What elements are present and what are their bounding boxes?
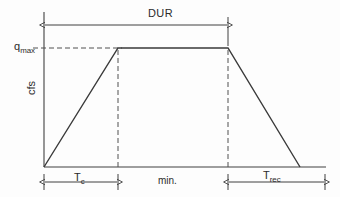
tc-label-subscript: c <box>81 177 85 186</box>
q-max-label: qmax <box>14 41 35 55</box>
dur-label: DUR <box>148 8 173 19</box>
y-axis-label: cfs <box>26 81 37 95</box>
q-max-label-subscript: max <box>20 46 35 55</box>
diagram-canvas <box>0 0 340 197</box>
tc-label-base: T <box>74 171 81 183</box>
trec-label-base: T <box>263 169 270 181</box>
hydrograph-curve <box>44 48 300 167</box>
x-axis-unit-label: min. <box>158 176 177 186</box>
tc-label: Tc <box>74 172 85 186</box>
hydrograph-diagram: DUR qmax cfs Tc min. Trec <box>0 0 340 197</box>
trec-label: Trec <box>263 170 281 184</box>
trec-label-subscript: rec <box>270 175 281 184</box>
